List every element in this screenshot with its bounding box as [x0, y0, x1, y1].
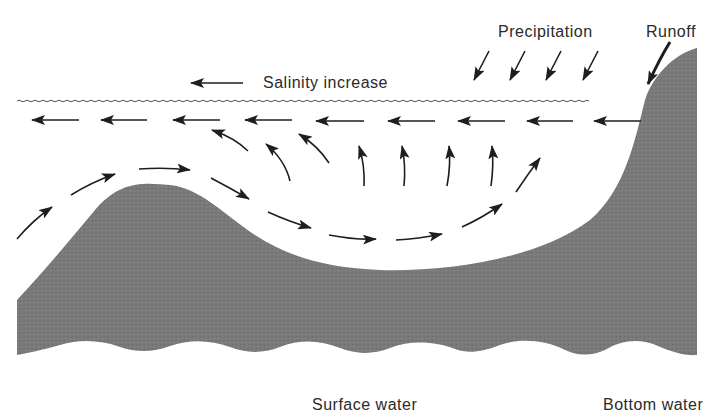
- estuary-circulation-diagram: Salinity increase Precipitation Runoff S…: [0, 0, 714, 416]
- precipitation-arrow-icon: [474, 51, 489, 80]
- upwelling-arrow-icon: [491, 146, 493, 186]
- upwelling-arrow-icon: [359, 146, 364, 186]
- runoff-label: Runoff: [646, 24, 696, 40]
- precipitation-arrow-icon: [546, 51, 561, 80]
- deep-flow-arrow-icon: [71, 174, 115, 195]
- upwelling-arrow-icon: [516, 158, 540, 192]
- diagram-canvas: [0, 0, 714, 416]
- salinity-increase-label: Salinity increase: [263, 75, 388, 91]
- deep-flow-arrow-icon: [139, 168, 190, 170]
- upwelling-arrow-icon: [299, 134, 329, 163]
- precipitation-arrow-icon: [510, 51, 525, 80]
- precipitation-arrows: [474, 51, 598, 80]
- upwelling-arrows: [212, 130, 540, 192]
- precipitation-arrow-icon: [583, 51, 598, 80]
- deep-flow-arrow-icon: [268, 212, 311, 228]
- seafloor-terrain: [17, 48, 697, 355]
- precipitation-label: Precipitation: [498, 24, 593, 40]
- deep-flow-arrow-icon: [211, 178, 249, 199]
- deep-flow-arrow-icon: [462, 204, 502, 227]
- surface-flow-arrows: [32, 120, 641, 121]
- surface-water-label: Surface water: [312, 397, 417, 413]
- upwelling-arrow-icon: [447, 146, 450, 186]
- bottom-water-label: Bottom water: [603, 397, 703, 413]
- deep-flow-arrow-icon: [396, 234, 442, 240]
- upwelling-arrow-icon: [266, 144, 290, 181]
- upwelling-arrow-icon: [212, 130, 248, 151]
- deep-flow-arrow-icon: [17, 207, 52, 239]
- deep-flow-arrow-icon: [329, 235, 376, 239]
- water-surface-line: [17, 100, 589, 102]
- upwelling-arrow-icon: [402, 146, 405, 186]
